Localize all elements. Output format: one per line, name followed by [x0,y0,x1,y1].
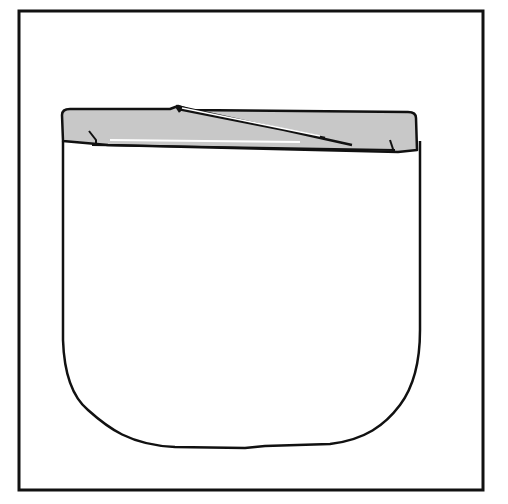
illustration [0,0,508,504]
pocket-body [63,141,420,448]
pocket [62,106,420,448]
